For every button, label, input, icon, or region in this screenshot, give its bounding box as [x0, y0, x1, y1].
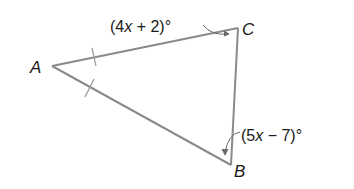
angle-c-rest: + 2)°: [132, 18, 171, 35]
angle-label-b: (5x − 7)°: [241, 127, 302, 144]
triangle-abc: [52, 28, 238, 165]
vertex-label-b: B: [234, 162, 245, 181]
angle-b-rest: − 7)°: [263, 127, 302, 144]
vertex-label-a: A: [29, 58, 41, 77]
vertex-label-c: C: [242, 20, 255, 39]
angle-c-open: (4: [110, 18, 124, 35]
angle-b-open: (5: [241, 127, 255, 144]
side-cb: [231, 28, 238, 165]
triangle-diagram: A C B (4x + 2)° (5x − 7)°: [0, 0, 354, 189]
angle-label-c: (4x + 2)°: [110, 18, 171, 35]
arrowhead-icon: [222, 149, 228, 155]
side-ab: [52, 66, 231, 165]
arrowhead-icon: [224, 31, 229, 36]
